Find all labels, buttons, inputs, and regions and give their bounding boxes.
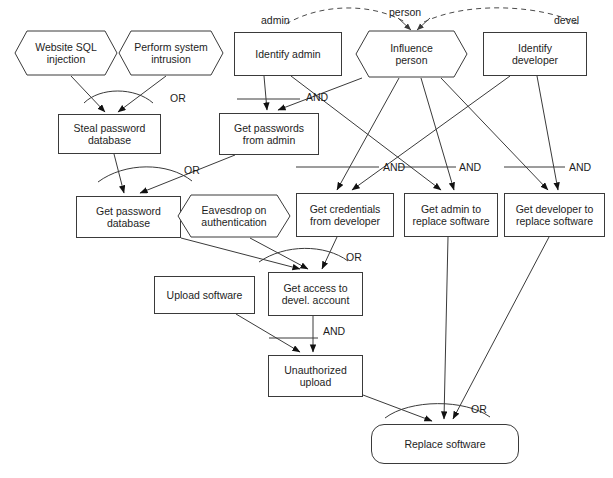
edges-to-unauthorized-upload [236, 314, 313, 352]
node-get-password-database[interactable]: Get password database [76, 196, 181, 238]
node-label: Get passwords from admin [231, 122, 307, 147]
node-label: Identify developer [509, 42, 561, 67]
edges-to-steal-password-database [71, 76, 166, 112]
gate-label-replace-software: OR [471, 403, 487, 415]
node-unauthorized-upload[interactable]: Unauthorized upload [268, 355, 363, 397]
role-label-person: person [389, 6, 421, 18]
node-influence-person[interactable]: Influence person [355, 30, 468, 78]
gate-label-get-developer-to-replace-software: AND [569, 161, 591, 173]
node-label: Get developer to replace software [513, 203, 597, 228]
role-label-devel: devel [554, 14, 579, 26]
gate-label-get-access-to-devel-account: OR [346, 251, 362, 263]
node-label: Influence person [387, 42, 436, 67]
node-label: Get password database [93, 205, 164, 230]
node-identify-developer[interactable]: Identify developer [483, 32, 587, 76]
or-arc-get-password-database [98, 167, 192, 182]
edges-to-get-credentials-from-developer [337, 76, 510, 190]
node-get-admin-to-replace-software[interactable]: Get admin to replace software [404, 193, 498, 237]
node-label: Eavesdrop on authentication [198, 204, 269, 229]
gate-label-get-password-database: OR [184, 164, 200, 176]
gate-label-get-admin-to-replace-software: AND [459, 161, 481, 173]
node-website-sql-injection[interactable]: Website SQL injection [14, 30, 118, 76]
gate-label-get-passwords-from-admin: AND [306, 91, 328, 103]
node-label: Steal password database [71, 122, 149, 147]
node-get-developer-to-replace-software[interactable]: Get developer to replace software [504, 193, 605, 237]
role-label-admin: admin [261, 14, 290, 26]
node-label: Replace software [401, 438, 488, 451]
node-identify-admin[interactable]: Identify admin [234, 32, 342, 76]
node-perform-system-intrusion[interactable]: Perform system intrusion [118, 30, 224, 76]
attack-tree-diagram: OR AND OR AND AND AND OR AND OR admin pe… [0, 0, 613, 478]
dashed-role-arrowheads [398, 18, 430, 30]
dashed-role-arcs [286, 8, 578, 24]
node-label: Identify admin [252, 48, 323, 61]
edges-to-replace-software [363, 237, 549, 421]
node-label: Get credentials from developer [307, 203, 384, 228]
edges-to-get-password-database [114, 154, 235, 193]
node-get-credentials-from-developer[interactable]: Get credentials from developer [296, 193, 394, 237]
node-label: Unauthorized upload [281, 364, 349, 389]
node-steal-password-database[interactable]: Steal password database [58, 114, 161, 154]
node-label: Perform system intrusion [131, 41, 211, 66]
gate-label-steal-password-database: OR [170, 92, 186, 104]
edges-to-get-access-to-devel-account [181, 237, 337, 269]
node-upload-software[interactable]: Upload software [154, 276, 255, 314]
node-label: Website SQL injection [32, 41, 100, 66]
node-replace-software[interactable]: Replace software [371, 424, 519, 464]
node-label: Upload software [164, 289, 246, 302]
node-get-passwords-from-admin[interactable]: Get passwords from admin [219, 113, 319, 155]
node-label: Get access to devel. account [279, 282, 353, 307]
node-get-access-to-devel-account[interactable]: Get access to devel. account [268, 272, 363, 316]
node-label: Get admin to replace software [409, 203, 492, 228]
gate-label-unauthorized-upload: AND [323, 325, 345, 337]
node-eavesdrop-on-authentication[interactable]: Eavesdrop on authentication [177, 194, 291, 238]
gate-label-get-credentials-from-developer: AND [383, 161, 405, 173]
